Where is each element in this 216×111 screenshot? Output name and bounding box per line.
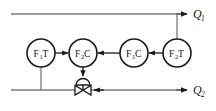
instrument-bubble-f1t[interactable]: F 1 T [27,39,55,67]
f1c-label-main: F [126,49,131,59]
diagram-canvas: F 1 T F 2 C F 1 C F 2 T Q 1 [0,0,216,111]
f2c-label-tail: C [84,49,90,59]
f2c-label-main: F [75,49,80,59]
valve-body-left [75,86,83,96]
instrument-bubble-f2c[interactable]: F 2 C [69,39,97,67]
instrument-bubble-f1c[interactable]: F 1 C [120,39,148,67]
stream-label-q1: Q 1 [193,7,205,23]
process-diagram: F 1 T F 2 C F 1 C F 2 T Q 1 [0,0,216,111]
f1c-label-tail: C [135,49,141,59]
valve-actuator-dome [76,79,90,86]
q2-label-sub: 2 [201,90,205,99]
f2t-label-main: F [169,49,174,59]
instrument-bubble-f2t[interactable]: F 2 T [163,39,191,67]
valve-body-right [83,86,91,96]
q1-label-sub: 1 [201,14,205,23]
f1t-label-tail: T [43,49,49,59]
control-valve[interactable] [75,79,91,96]
stream-label-q2: Q 2 [193,83,205,99]
f2t-label-tail: T [178,49,184,59]
f1t-label-main: F [34,49,39,59]
